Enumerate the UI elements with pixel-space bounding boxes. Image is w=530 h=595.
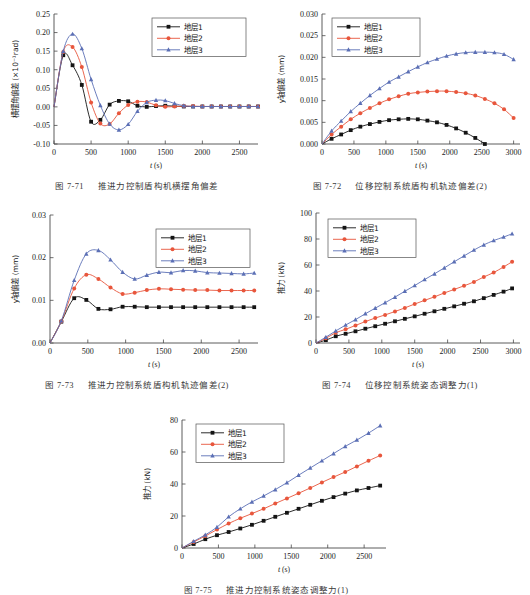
y-axis-label: y轴偏差 (mm)	[276, 55, 286, 103]
figure-7-74: 020406080100050010001500200025003000t (s…	[272, 203, 528, 390]
x-tick-label: 2500	[474, 148, 490, 157]
y-tick-label: 0.15	[36, 47, 50, 56]
y-tick-label: 100	[300, 209, 312, 218]
series-1	[182, 484, 382, 548]
series-2	[182, 454, 382, 548]
legend-label: 地层3	[360, 246, 379, 256]
y-tick-label: 0.25	[36, 10, 50, 19]
series-2	[322, 89, 516, 144]
legend-label: 地层1	[360, 223, 379, 233]
x-axis-label: t (s)	[148, 360, 161, 369]
y-tick-label: 0.00	[32, 339, 46, 348]
legend-label: 地层1	[184, 22, 203, 32]
x-axis-label: t (s)	[278, 565, 291, 574]
legend-label: 地层2	[188, 244, 207, 254]
caption-number: 图 7-71	[55, 181, 84, 191]
x-tick-label: 2000	[320, 552, 336, 561]
legend-label: 地层3	[188, 256, 207, 266]
x-tick-label: 2000	[194, 148, 210, 157]
y-tick-label: 0.025	[300, 31, 318, 40]
y-tick-label: 0	[174, 544, 178, 553]
y-tick-label: 40	[304, 287, 312, 296]
x-axis-label: t (s)	[415, 161, 428, 170]
y-tick-label: 0.00	[36, 103, 50, 112]
x-tick-label: 2500	[231, 148, 247, 157]
y-tick-label: 0.000	[300, 140, 318, 149]
x-tick-label: 1500	[407, 347, 423, 356]
plot-7-71: -0.10-0.050.000.050.100.150.200.25050010…	[6, 4, 268, 176]
plot-7-75: 02040608005001000150020002500t (s)推力 (kN…	[138, 408, 394, 580]
y-tick-label: -0.05	[33, 121, 50, 130]
x-tick-label: 500	[85, 148, 97, 157]
figure-7-72: 0.0000.0050.0100.0150.0200.0250.03005001…	[272, 4, 528, 191]
x-tick-label: 1000	[120, 148, 136, 157]
y-axis-label: 推力 (kN)	[142, 468, 152, 500]
y-tick-label: 20	[304, 313, 312, 322]
y-tick-label: 0.030	[300, 10, 318, 19]
plot-7-72: 0.0000.0050.0100.0150.0200.0250.03005001…	[272, 4, 528, 176]
chart-7-71-svg: -0.10-0.050.000.050.100.150.200.25050010…	[6, 4, 268, 176]
legend: 地层1地层2地层3	[332, 18, 420, 57]
svg-text:推力 (kN): 推力 (kN)	[142, 468, 152, 500]
legend-label: 地层1	[364, 22, 383, 32]
x-tick-label: 1000	[118, 347, 134, 356]
y-tick-label: 60	[170, 448, 178, 457]
svg-text:推力 (kN): 推力 (kN)	[276, 262, 286, 294]
caption-text: 推进力控制盾构机横摆角偏差	[98, 181, 219, 191]
svg-text:y轴偏差 (mm): y轴偏差 (mm)	[276, 55, 286, 103]
x-tick-label: 1000	[378, 148, 394, 157]
x-tick-label: 3000	[506, 148, 522, 157]
plot-7-73: 0.000.010.020.0305001000150020002500t (s…	[6, 203, 268, 375]
legend-label: 地层3	[364, 45, 383, 55]
y-axis-label: 横摆角偏差 (×10⁻¹rad)	[10, 40, 20, 119]
caption-7-73: 图 7-73 推进力控制系统盾构机轨迹偏差(2)	[6, 378, 268, 390]
chart-7-72-svg: 0.0000.0050.0100.0150.0200.0250.03005001…	[272, 4, 528, 176]
x-tick-label: 1500	[157, 148, 173, 157]
y-tick-label: 0	[308, 339, 312, 348]
caption-7-71: 图 7-71 推进力控制盾构机横摆角偏差	[6, 179, 268, 191]
y-tick-label: 0.020	[300, 53, 318, 62]
series-1	[316, 287, 514, 344]
x-tick-label: 0	[48, 347, 52, 356]
chart-7-75-svg: 02040608005001000150020002500t (s)推力 (kN…	[138, 408, 394, 580]
caption-number: 图 7-75	[184, 585, 213, 595]
y-tick-label: 0.03	[32, 211, 46, 220]
x-tick-label: 0	[52, 148, 56, 157]
y-tick-label: 0.02	[32, 253, 46, 262]
y-tick-label: 0.01	[32, 296, 46, 305]
figure-7-75: 02040608005001000150020002500t (s)推力 (kN…	[138, 408, 394, 595]
legend: 地层1地层2地层3	[196, 424, 284, 463]
x-tick-label: 500	[343, 347, 355, 356]
caption-text: 推进力控制系统盾构机轨迹偏差(2)	[88, 380, 229, 390]
x-axis-label: t (s)	[150, 161, 163, 170]
x-tick-label: 2000	[193, 347, 209, 356]
x-tick-label: 0	[314, 347, 318, 356]
x-tick-label: 2000	[442, 148, 458, 157]
caption-7-75: 图 7-75 推进力控制系统姿态调整力(1)	[138, 583, 394, 595]
series-2	[316, 260, 514, 343]
y-tick-label: -0.10	[33, 140, 50, 149]
x-tick-label: 500	[212, 552, 224, 561]
series-1	[50, 296, 256, 343]
legend-label: 地层2	[364, 33, 383, 43]
x-tick-label: 3000	[505, 347, 521, 356]
y-tick-label: 0.010	[300, 96, 318, 105]
svg-text:t (s): t (s)	[278, 565, 291, 574]
legend: 地层1地层2地层3	[152, 18, 246, 57]
caption-number: 图 7-73	[45, 380, 74, 390]
y-tick-label: 80	[170, 416, 178, 425]
legend-label: 地层1	[228, 428, 247, 438]
x-tick-label: 1500	[410, 148, 426, 157]
svg-text:t (s): t (s)	[412, 360, 425, 369]
y-tick-label: 20	[170, 512, 178, 521]
x-tick-label: 2000	[440, 347, 456, 356]
caption-7-72: 图 7-72 位移控制系统盾构机轨迹偏差(2)	[272, 179, 528, 191]
caption-number: 图 7-74	[322, 380, 351, 390]
y-tick-label: 0.10	[36, 66, 50, 75]
x-tick-label: 500	[348, 148, 360, 157]
svg-text:t (s): t (s)	[150, 161, 163, 170]
x-tick-label: 1000	[374, 347, 390, 356]
y-tick-label: 0.005	[300, 118, 318, 127]
figure-7-71: -0.10-0.050.000.050.100.150.200.25050010…	[6, 4, 268, 191]
series-1	[54, 53, 260, 124]
